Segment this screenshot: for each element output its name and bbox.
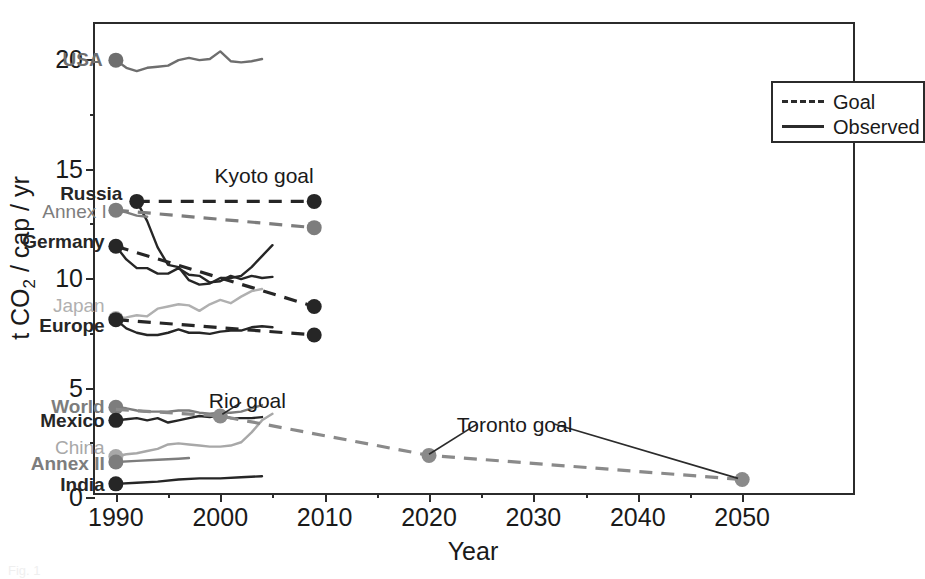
goal-marker-germany [307, 299, 322, 314]
series-label-russia: Russia [60, 183, 122, 202]
start-marker-germany [108, 239, 123, 254]
x-axis-minor-tick [481, 493, 483, 498]
y-axis-tick [86, 169, 95, 171]
goal-marker-russia [307, 194, 322, 209]
x-axis-tick [533, 493, 535, 502]
legend-label-goal: Goal [833, 92, 875, 112]
x-axis-tick-label: 2040 [610, 505, 666, 530]
goal-marker-annex-i [307, 220, 322, 235]
series-label-india: India [60, 474, 104, 493]
x-axis-minor-tick [377, 493, 379, 498]
observed-line-germany [116, 246, 273, 282]
figure-caption: Fig. 1 [8, 563, 41, 578]
observed-line-japan [116, 289, 262, 319]
y-axis-minor-tick [90, 114, 95, 116]
x-axis-minor-tick [690, 493, 692, 498]
x-axis-tick-label: 2000 [192, 505, 248, 530]
start-marker-europe [108, 312, 123, 327]
observed-line-annex-ii [116, 458, 189, 462]
start-marker-russia [129, 194, 144, 209]
y-axis-tick [86, 388, 95, 390]
x-axis-minor-tick [586, 493, 588, 498]
solid-line-icon [782, 125, 824, 128]
goal-line-toronto-goal-line [116, 409, 742, 479]
annotation-leader-line-2 [554, 424, 738, 478]
legend-item-observed: Observed [782, 114, 923, 139]
observed-line-usa [116, 51, 262, 71]
start-marker-annex-i [108, 203, 123, 218]
y-axis-title-post: / cap / yr [6, 176, 34, 279]
start-marker-annex-ii [108, 454, 123, 469]
goal-line-germany [116, 246, 314, 306]
y-axis-title: t CO2 / cap / yr [6, 176, 40, 340]
y-axis-tick-label: 15 [55, 156, 83, 181]
observed-line-mexico [116, 415, 262, 423]
plot-area: 051015201990200020102020203020402050 USA… [93, 22, 855, 495]
start-marker-mexico [108, 413, 123, 428]
series-label-europe: Europe [39, 316, 104, 335]
y-axis-tick-label: 10 [55, 266, 83, 291]
annotation-kyoto-goal: Kyoto goal [214, 165, 313, 186]
x-axis-tick [742, 493, 744, 502]
legend-label-observed: Observed [833, 117, 920, 137]
x-axis-minor-tick [272, 493, 274, 498]
start-marker-world [108, 400, 123, 415]
start-marker-india [108, 476, 123, 491]
y-axis-minor-tick [90, 223, 95, 225]
goal-marker-point-2 [735, 472, 750, 487]
series-label-germany: Germany [22, 231, 104, 250]
legend: Goal Observed [771, 81, 925, 143]
observed-line-india [116, 476, 262, 484]
annotation-toronto-goal: Toronto goal [457, 413, 573, 434]
y-axis-tick [86, 497, 95, 499]
x-axis-tick [325, 493, 327, 502]
series-label-usa: USA [62, 50, 102, 69]
x-axis-tick [116, 493, 118, 502]
x-axis-tick [220, 493, 222, 502]
goal-marker-europe [307, 327, 322, 342]
x-axis-tick-label: 2050 [714, 505, 770, 530]
x-axis-tick-label: 1990 [88, 505, 144, 530]
x-axis-tick-label: 2020 [401, 505, 457, 530]
y-axis-tick [86, 278, 95, 280]
x-axis-minor-tick [168, 493, 170, 498]
annotation-rio-goal: Rio goal [209, 389, 286, 410]
x-axis-tick-label: 2010 [297, 505, 353, 530]
x-axis-tick [429, 493, 431, 502]
start-marker-usa [108, 53, 123, 68]
x-axis-title: Year [448, 537, 499, 566]
y-axis-title-pre: t CO [6, 288, 34, 339]
x-axis-tick [638, 493, 640, 502]
y-axis-title-subscript: 2 [20, 279, 39, 288]
series-label-mexico: Mexico [40, 411, 104, 430]
series-label-japan: Japan [53, 296, 105, 315]
series-label-annex-i: Annex I [42, 202, 106, 221]
legend-item-goal: Goal [782, 89, 923, 114]
dashed-line-icon [782, 100, 824, 103]
series-label-annex-ii: Annex II [31, 454, 105, 473]
x-axis-tick-label: 2030 [506, 505, 562, 530]
